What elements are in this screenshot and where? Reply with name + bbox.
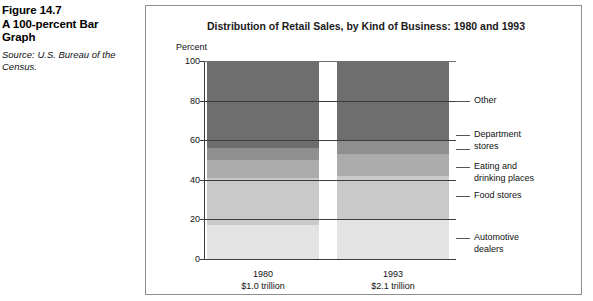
gridline-100 xyxy=(204,61,456,62)
gridline-60 xyxy=(204,140,456,141)
callout-eating-and-drinking-places: Eating and drinking places xyxy=(474,161,534,184)
gridline-0 xyxy=(204,259,456,260)
segment-1993-food-stores[interactable] xyxy=(337,176,449,220)
gridline-80 xyxy=(204,101,456,102)
y-tick-40: 40 xyxy=(174,175,200,185)
segment-1980-other[interactable] xyxy=(207,61,319,148)
leader-line-automotive-dealers xyxy=(456,238,470,239)
y-tick-60: 60 xyxy=(174,135,200,145)
x-label-1993: 1993 $2.1 trillion xyxy=(318,268,468,292)
callout-other: Other xyxy=(474,95,497,107)
gridline-20 xyxy=(204,219,456,220)
leader-line-eating-and-drinking-places xyxy=(456,149,470,150)
y-tick-20: 20 xyxy=(174,214,200,224)
gridline-40 xyxy=(204,180,456,181)
segment-1993-department-stores[interactable] xyxy=(337,140,449,154)
leader-line-other xyxy=(456,101,470,102)
callout-department-stores: Department stores xyxy=(474,129,521,152)
x-label-1993-total: $2.1 trillion xyxy=(371,281,415,291)
figure-frame: Distribution of Retail Sales, by Kind of… xyxy=(145,5,582,295)
leader-line-eating-upper xyxy=(456,167,470,168)
segment-1993-automotive-dealers[interactable] xyxy=(337,220,449,260)
figure-source-note: Source: U.S. Bureau of the Census. xyxy=(2,49,140,73)
x-label-1980: 1980 $1.0 trillion xyxy=(188,268,338,292)
leader-line-department-stores xyxy=(456,135,470,136)
y-tick-80: 80 xyxy=(174,96,200,106)
x-label-1980-total: $1.0 trillion xyxy=(241,281,285,291)
segment-1993-eating-and-drinking-places[interactable] xyxy=(337,154,449,176)
x-label-1993-year: 1993 xyxy=(383,269,403,279)
x-label-1980-year: 1980 xyxy=(253,269,273,279)
y-tick-100: 100 xyxy=(174,56,200,66)
segment-1980-eating-and-drinking-places[interactable] xyxy=(207,160,319,178)
chart-plot-area: Percent 100 80 60 40 20 0 xyxy=(146,6,583,296)
bar-1993[interactable] xyxy=(337,61,449,259)
y-axis-tick-labels: 100 80 60 40 20 0 xyxy=(172,6,200,296)
bar-1980[interactable] xyxy=(207,61,319,259)
figure-number-and-title: Figure 14.7 A 100-percent Bar Graph xyxy=(2,4,140,45)
figure-caption-block: Figure 14.7 A 100-percent Bar Graph Sour… xyxy=(2,4,140,73)
segment-1980-automotive-dealers[interactable] xyxy=(207,225,319,259)
callout-automotive-dealers: Automotive dealers xyxy=(474,232,519,255)
segment-1980-department-stores[interactable] xyxy=(207,148,319,160)
callout-food-stores: Food stores xyxy=(474,190,522,202)
leader-line-food-stores xyxy=(456,196,470,197)
y-axis-line xyxy=(204,61,205,260)
segment-1980-food-stores[interactable] xyxy=(207,178,319,226)
y-tick-0: 0 xyxy=(174,254,200,264)
